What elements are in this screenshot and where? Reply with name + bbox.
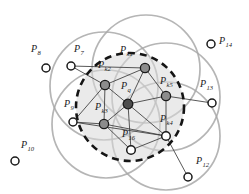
node-Pk3[interactable] [99, 119, 108, 128]
node-P7[interactable] [67, 62, 75, 70]
figure-canvas: P8P10P14P13P12P7P9Pk1Pk2Pk3Pk5Pk4PqP16 [0, 0, 249, 194]
node-label-P13: P13 [199, 78, 214, 91]
node-label-P14: P14 [218, 35, 233, 48]
node-P13[interactable] [208, 99, 216, 107]
node-P8[interactable] [42, 64, 50, 72]
node-Pq[interactable] [123, 99, 133, 109]
node-label-P10: P10 [20, 139, 35, 152]
node-P10[interactable] [11, 157, 19, 165]
node-label-P12: P12 [195, 155, 210, 168]
diagram-svg: P8P10P14P13P12P7P9Pk1Pk2Pk3Pk5Pk4PqP16 [0, 0, 249, 194]
node-Pk2[interactable] [100, 80, 109, 89]
node-Pk5[interactable] [161, 91, 170, 100]
node-P9[interactable] [69, 118, 77, 126]
node-label-P7: P7 [73, 43, 85, 56]
node-Pk1[interactable] [140, 63, 149, 72]
node-label-P8: P8 [30, 43, 42, 56]
node-P16[interactable] [127, 146, 136, 155]
node-label-P9: P9 [63, 98, 75, 111]
node-Pk4[interactable] [162, 132, 171, 141]
node-label-Pk1: Pk1 [119, 44, 133, 57]
node-P12[interactable] [184, 173, 192, 181]
node-P14[interactable] [207, 40, 215, 48]
